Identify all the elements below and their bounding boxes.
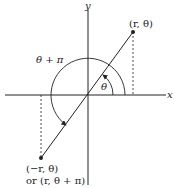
x-axis-label: x: [167, 89, 173, 100]
point-r-theta: [131, 30, 135, 34]
opposite-point-label: (−r, θ): [26, 163, 58, 174]
opposite-point-alt-label: or (r, θ + π): [26, 175, 85, 186]
point-neg-r-theta: [39, 156, 43, 160]
theta-plus-pi-label: θ + π: [36, 54, 64, 65]
theta-label: θ: [101, 81, 107, 92]
point-label: (r, θ): [129, 18, 153, 29]
y-axis-label: y: [84, 0, 91, 11]
polar-diagram: x y (r, θ) θ θ + π (−r, θ) or (r, θ + π): [0, 0, 174, 188]
diagram-canvas: x y (r, θ) θ θ + π (−r, θ) or (r, θ + π): [0, 0, 174, 188]
